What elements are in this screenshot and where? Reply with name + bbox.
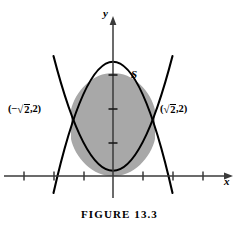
point-label-left: (−√2,2) <box>8 103 41 115</box>
point-right-tail: ,2) <box>176 103 187 114</box>
radical-sign-left: √ <box>17 103 23 115</box>
x-axis-label: x <box>224 176 230 187</box>
figure-caption: FIGURE 13.3 <box>0 208 239 225</box>
y-axis-arrowhead <box>110 16 117 25</box>
point-left-tail: ,2) <box>30 103 41 114</box>
point-left-radicand: 2 <box>24 104 30 116</box>
figure-container: y x S (−√2,2) (√2,2) FIGURE 13.3 <box>0 0 239 225</box>
region-label-s: S <box>131 69 137 80</box>
radical-sign-right: √ <box>163 103 169 115</box>
point-right-radicand: 2 <box>170 104 176 116</box>
y-axis-label: y <box>103 8 108 19</box>
point-label-right: (√2,2) <box>160 103 187 115</box>
point-left-open: (− <box>8 103 17 114</box>
